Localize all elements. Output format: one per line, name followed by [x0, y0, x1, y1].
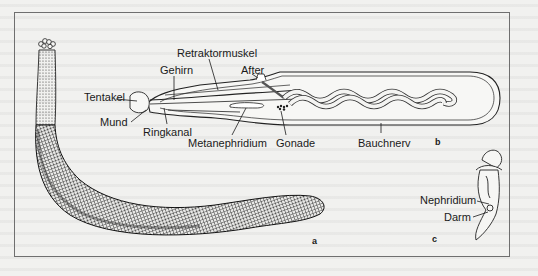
- label-retraktormuskel: Retraktormuskel: [177, 47, 257, 59]
- panel-label-c: c: [432, 234, 437, 244]
- label-after: After: [241, 64, 264, 76]
- label-darm: Darm: [444, 211, 471, 223]
- figure-artwork: [0, 0, 538, 276]
- label-metanephridium: Metanephridium: [188, 137, 267, 149]
- panel-label-a: a: [312, 236, 317, 246]
- label-nephridium: Nephridium: [420, 194, 476, 206]
- label-gonade: Gonade: [276, 137, 315, 149]
- worm-internal-anatomy: [130, 72, 500, 125]
- panel-label-b: b: [435, 137, 441, 147]
- larva-drawing: [476, 150, 502, 240]
- label-mund: Mund: [100, 116, 128, 128]
- label-ringkanal: Ringkanal: [143, 126, 192, 138]
- label-bauchnerv: Bauchnerv: [358, 137, 411, 149]
- label-gehirn: Gehirn: [160, 64, 193, 76]
- label-tentakel: Tentakel: [84, 91, 125, 103]
- tentacle-crown: [39, 39, 56, 49]
